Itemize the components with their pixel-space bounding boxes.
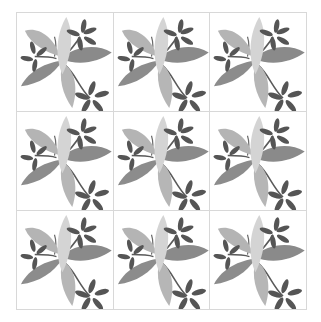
leaf-motif-icon xyxy=(114,211,210,309)
pattern-tile xyxy=(114,13,211,112)
leaf-motif-icon xyxy=(210,112,306,210)
leaf-motif-icon xyxy=(114,13,210,111)
leaf-motif-icon xyxy=(210,13,306,111)
pattern-tile xyxy=(210,211,307,310)
leaf-motif-icon xyxy=(17,211,113,309)
pattern-tile xyxy=(114,112,211,211)
leaf-motif-icon xyxy=(17,13,113,111)
tile-grid xyxy=(16,12,307,310)
pattern-tile xyxy=(17,112,114,211)
leaf-motif-icon xyxy=(17,112,113,210)
pattern-tile xyxy=(114,211,211,310)
pattern-tile xyxy=(210,112,307,211)
leaf-motif-icon xyxy=(210,211,306,309)
leaf-motif-icon xyxy=(114,112,210,210)
pattern-tile xyxy=(17,13,114,112)
pattern-tile xyxy=(210,13,307,112)
pattern-tile xyxy=(17,211,114,310)
